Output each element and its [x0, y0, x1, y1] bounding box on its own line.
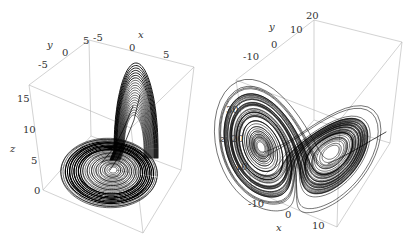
y-axis-label: y: [268, 21, 275, 32]
z-tick: 30: [226, 104, 239, 115]
right-trajectory: [214, 80, 386, 213]
x-tick: 5: [163, 49, 169, 60]
z-tick: 5: [31, 155, 37, 166]
x-axis-label: x: [276, 222, 282, 233]
z-tick: 10: [235, 161, 248, 172]
left-trajectory: [61, 63, 158, 208]
right-plot: 20 10 0 -10 y 30 20 10 z -10 0 10 x: [214, 10, 402, 233]
y-tick: 10: [290, 24, 303, 35]
y-tick: -5: [38, 59, 48, 70]
left-plot: 5 0 -5 y -5 0 5 x 15 10 5 0 z: [9, 29, 194, 233]
z-tick: 20: [231, 133, 244, 144]
z-tick: 10: [23, 124, 36, 135]
z-tick: 15: [17, 93, 30, 104]
z-axis-label: z: [219, 133, 226, 144]
z-axis-label: z: [9, 143, 16, 154]
x-tick: -10: [248, 198, 264, 209]
y-tick: 5: [83, 35, 89, 46]
y-tick: 20: [306, 10, 319, 21]
trajectory-segment: [219, 86, 368, 204]
y-tick: 0: [62, 47, 68, 58]
y-axis-label: y: [46, 39, 53, 50]
x-tick: 0: [285, 209, 291, 220]
figure: 5 0 -5 y -5 0 5 x 15 10 5 0 z: [0, 0, 413, 243]
x-axis-label: x: [138, 29, 144, 40]
x-tick: 0: [129, 42, 135, 53]
y-tick: -10: [243, 51, 259, 62]
x-tick: -5: [93, 32, 103, 43]
z-tick: 0: [34, 185, 40, 196]
x-tick: 10: [312, 220, 325, 231]
y-tick: 0: [271, 39, 277, 50]
